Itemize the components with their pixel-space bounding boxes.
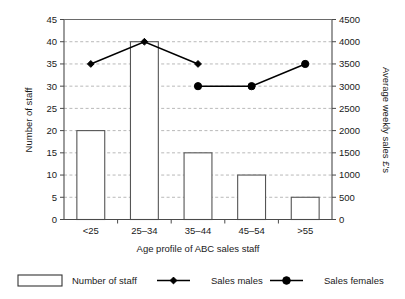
circle-marker-icon (194, 83, 201, 90)
legend-label: Sales females (324, 275, 384, 286)
x-axis-category-label: 25–34 (131, 225, 157, 236)
x-axis-category-label: 35–44 (185, 225, 211, 236)
right-axis-ticks (332, 20, 336, 220)
left-axis-tick-label: 45 (46, 14, 57, 25)
diamond-marker-icon (87, 61, 94, 68)
left-axis-tick-label: 35 (46, 58, 57, 69)
legend-label: Number of staff (72, 275, 137, 286)
x-axis-category-label: 45–54 (238, 225, 264, 236)
left-axis-title: Number of staff (23, 87, 34, 152)
legend-item[interactable]: Sales males (157, 275, 263, 286)
left-axis-ticks (60, 20, 64, 220)
bar (291, 197, 319, 219)
x-axis-title: Age profile of ABC sales staff (137, 243, 260, 254)
circle-marker-icon (302, 60, 309, 67)
right-axis-tick-label: 1500 (339, 147, 360, 158)
left-axis-tick-label: 30 (46, 81, 57, 92)
left-axis-tick-label: 5 (52, 192, 57, 203)
bar (238, 175, 266, 219)
left-axis-tick-label: 25 (46, 103, 57, 114)
right-axis-title: Average weekly sales £'s (381, 67, 392, 173)
legend-item[interactable]: Number of staff (18, 275, 137, 286)
chart-legend: Number of staffSales malesSales females (18, 275, 384, 286)
bar (184, 153, 212, 220)
right-axis-tick-label: 4500 (339, 14, 360, 25)
right-axis-tick-label: 2500 (339, 103, 360, 114)
right-axis-tick-label: 4000 (339, 36, 360, 47)
right-axis-tick-label: 2000 (339, 125, 360, 136)
legend-circle-marker-icon (283, 277, 291, 285)
right-axis: 050010001500200025003000350040004500 Ave… (332, 14, 392, 225)
dual-axis-chart: 051015202530354045 Number of staff 05001… (0, 0, 405, 299)
left-axis-tick-label: 20 (46, 125, 57, 136)
right-axis-tick-label: 0 (339, 214, 344, 225)
right-axis-tick-label: 3000 (339, 81, 360, 92)
right-axis-tick-label: 3500 (339, 58, 360, 69)
legend-item[interactable]: Sales females (270, 275, 384, 286)
bar (77, 131, 105, 220)
circle-marker-icon (248, 83, 255, 90)
x-axis-category-label: <25 (83, 225, 99, 236)
right-axis-tick-labels: 050010001500200025003000350040004500 (339, 14, 360, 225)
diamond-marker-icon (195, 61, 202, 68)
left-axis-tick-labels: 051015202530354045 (46, 14, 57, 225)
x-axis-category-labels: <2525–3435–4445–54>55 (83, 225, 314, 236)
legend-swatch-icon (18, 275, 62, 286)
chart-container: 051015202530354045 Number of staff 05001… (0, 0, 405, 299)
left-axis-tick-label: 40 (46, 36, 57, 47)
bar (130, 42, 158, 220)
legend-label: Sales males (211, 275, 263, 286)
legend-diamond-marker-icon (170, 277, 177, 284)
x-axis-category-ticks (118, 220, 279, 224)
left-axis: 051015202530354045 Number of staff (23, 14, 64, 225)
left-axis-tick-label: 10 (46, 169, 57, 180)
right-axis-tick-label: 1000 (339, 169, 360, 180)
left-axis-tick-label: 0 (52, 214, 57, 225)
right-axis-tick-label: 500 (339, 192, 355, 203)
x-axis-category-label: >55 (297, 225, 313, 236)
left-axis-tick-label: 15 (46, 147, 57, 158)
